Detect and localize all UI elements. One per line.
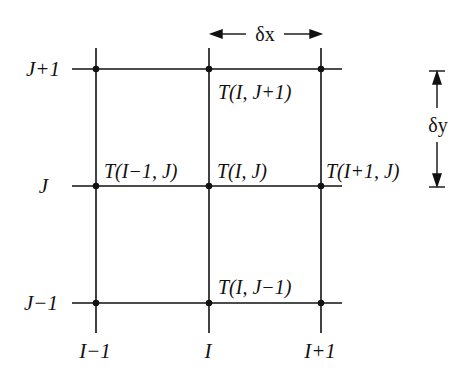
- grid-lines: [72, 48, 342, 333]
- finite-difference-grid-diagram: J+1 J J−1 I−1 I I+1 T(I, J+1) T(I−1, J) …: [0, 0, 466, 378]
- arrow-left-icon: [211, 30, 222, 38]
- arrow-right-icon: [310, 30, 321, 38]
- node: [206, 300, 213, 307]
- dx-label: δx: [255, 23, 274, 45]
- node-label-t-i-jplus1: T(I, J+1): [218, 81, 292, 104]
- col-label-i-plus-1: I+1: [303, 339, 336, 363]
- node: [93, 300, 100, 307]
- col-label-i: I: [204, 339, 213, 363]
- dy-label: δy: [428, 114, 447, 137]
- node: [318, 300, 325, 307]
- row-label-j-plus-1: J+1: [26, 57, 60, 81]
- arrow-up-icon: [433, 72, 441, 84]
- row-label-j: J: [39, 174, 50, 198]
- node-label-t-i-j: T(I, J): [217, 160, 267, 183]
- node: [93, 183, 100, 190]
- arrow-down-icon: [433, 174, 441, 186]
- node-label-t-i-jminus1: T(I, J−1): [218, 276, 292, 299]
- node-label-t-iminus1-j: T(I−1, J): [104, 160, 178, 183]
- node: [206, 183, 213, 190]
- node: [206, 66, 213, 73]
- node: [318, 66, 325, 73]
- row-label-j-minus-1: J−1: [24, 291, 58, 315]
- col-label-i-minus-1: I−1: [78, 339, 111, 363]
- node-label-t-iplus1-j: T(I+1, J): [326, 160, 400, 183]
- node: [93, 66, 100, 73]
- node: [318, 183, 325, 190]
